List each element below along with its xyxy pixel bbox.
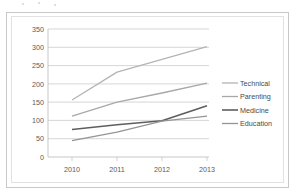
y-tick-label: 350 [32, 25, 44, 34]
legend-label-parenting: Parenting [240, 92, 271, 101]
x-tick-label: 2010 [64, 165, 80, 174]
x-tick-label: 2013 [199, 165, 215, 174]
artifact-dot [22, 3, 24, 5]
y-tick-label: 50 [36, 134, 44, 143]
line-chart: 350 300 250 200 150 100 50 0 2010 2011 2… [12, 17, 285, 184]
y-tick-label: 100 [32, 116, 44, 125]
y-tick-label: 250 [32, 61, 44, 70]
legend-label-technical: Technical [240, 79, 270, 88]
artifact-dot [54, 4, 56, 6]
y-tick-label: 300 [32, 43, 44, 52]
x-tick-label: 2012 [154, 165, 170, 174]
series-line-technical [72, 47, 207, 100]
series-line-education [72, 116, 207, 141]
y-tick-label: 200 [32, 80, 44, 89]
y-tick-label: 150 [32, 98, 44, 107]
legend-label-medicine: Medicine [240, 106, 269, 115]
y-axis-labels: 350 300 250 200 150 100 50 0 [32, 25, 44, 162]
x-axis-labels: 2010 2011 2012 2013 [64, 165, 215, 174]
x-tick-marks [72, 157, 207, 161]
y-tick-label: 0 [40, 153, 44, 162]
artifact-dot [38, 2, 40, 4]
x-tick-label: 2011 [109, 165, 124, 174]
gridlines [48, 29, 209, 139]
chart-svg: 350 300 250 200 150 100 50 0 2010 2011 2… [12, 17, 285, 184]
series-lines [72, 47, 207, 141]
chart-plot-frame: 350 300 250 200 150 100 50 0 2010 2011 2… [11, 16, 284, 183]
chart-outer-frame: 350 300 250 200 150 100 50 0 2010 2011 2… [6, 12, 289, 188]
chart-legend: Technical Parenting Medicine Education [222, 79, 272, 129]
legend-label-education: Education [240, 119, 272, 128]
